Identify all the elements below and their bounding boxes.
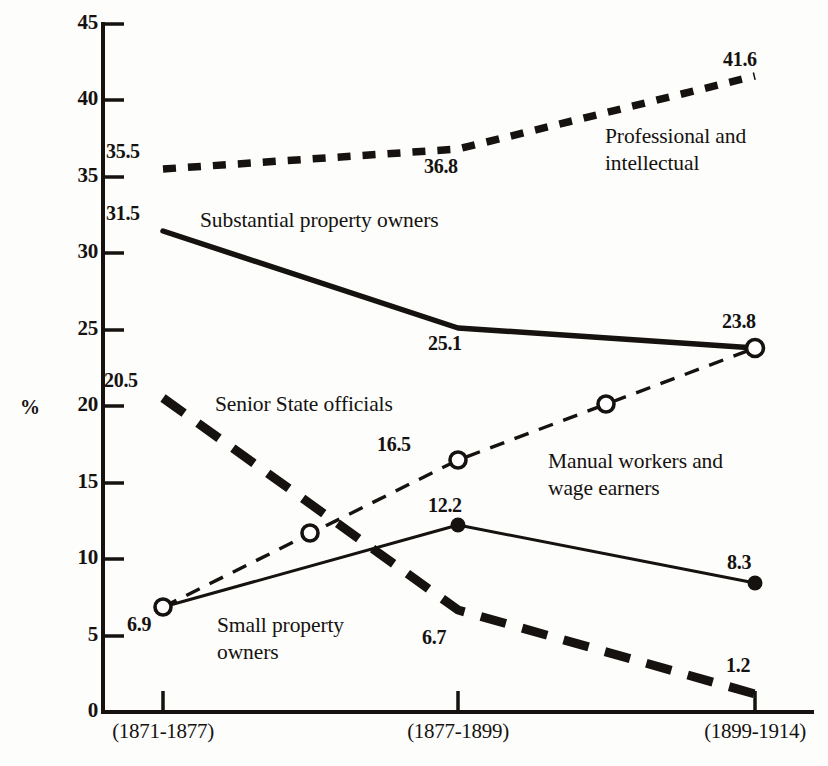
series-annotation-professional-line1: Professional and xyxy=(605,124,746,148)
series-manual-workers-and-wage-earners xyxy=(163,348,755,607)
data-label-small-3: 8.3 xyxy=(727,551,751,573)
x-tick-label-2: (1877-1899) xyxy=(398,720,518,744)
series-annotation-senior: Senior State officials xyxy=(215,392,393,416)
series-annotation-small-line2: owners xyxy=(217,640,279,664)
marker-filled-circle xyxy=(748,576,763,591)
y-tick-label-10: 10 xyxy=(56,546,98,570)
series-annotation-manual-line1: Manual workers and xyxy=(548,449,723,473)
x-tick-label-3: (1899-1914) xyxy=(695,720,815,744)
y-tick-label-0: 0 xyxy=(56,699,98,723)
marker-open-circle xyxy=(302,525,318,541)
y-tick-label-30: 30 xyxy=(56,240,98,264)
marker-open-circle xyxy=(450,452,466,468)
y-axis-unit-label: % xyxy=(20,396,40,418)
y-tick-label-35: 35 xyxy=(56,164,98,188)
series-annotation-manual-line2: wage earners xyxy=(548,476,660,500)
series-substantial-property-owners xyxy=(163,231,755,348)
series-annotation-substantial: Substantial property owners xyxy=(200,208,439,232)
data-label-professional-3: 41.6 xyxy=(723,48,757,70)
data-label-senior-1: 20.5 xyxy=(104,369,138,391)
data-label-senior-2: 6.7 xyxy=(422,626,446,648)
data-label-small-2: 12.2 xyxy=(428,494,462,516)
x-axis-ticks xyxy=(163,691,755,712)
y-tick-label-45: 45 xyxy=(56,11,98,35)
chart-container: 45 40 35 30 25 20 15 10 5 0 % (1871-1877… xyxy=(0,0,828,766)
data-label-senior-3: 1.2 xyxy=(726,654,750,676)
data-label-substantial-3: 23.8 xyxy=(722,310,756,332)
y-tick-label-15: 15 xyxy=(56,470,98,494)
x-tick-label-1: (1871-1877) xyxy=(103,720,223,744)
y-axis-ticks xyxy=(103,24,124,636)
data-label-manual-2: 16.5 xyxy=(377,433,411,455)
data-label-professional-1: 35.5 xyxy=(106,140,140,162)
series-annotation-professional-line2: intellectual xyxy=(605,151,699,175)
data-label-small-1: 6.9 xyxy=(127,613,151,635)
series-small-property-owners xyxy=(163,525,755,607)
marker-open-circle xyxy=(747,340,764,357)
data-label-professional-2: 36.8 xyxy=(424,155,458,177)
y-tick-label-40: 40 xyxy=(56,87,98,111)
marker-open-circle xyxy=(155,599,171,615)
data-label-substantial-1: 31.5 xyxy=(106,202,140,224)
series-annotation-small-line1: Small property xyxy=(217,613,344,637)
marker-filled-circle xyxy=(451,518,466,533)
y-tick-label-25: 25 xyxy=(56,317,98,341)
marker-open-circle xyxy=(598,396,614,412)
data-label-substantial-2: 25.1 xyxy=(428,332,462,354)
y-tick-label-5: 5 xyxy=(56,623,98,647)
y-tick-label-20: 20 xyxy=(56,393,98,417)
